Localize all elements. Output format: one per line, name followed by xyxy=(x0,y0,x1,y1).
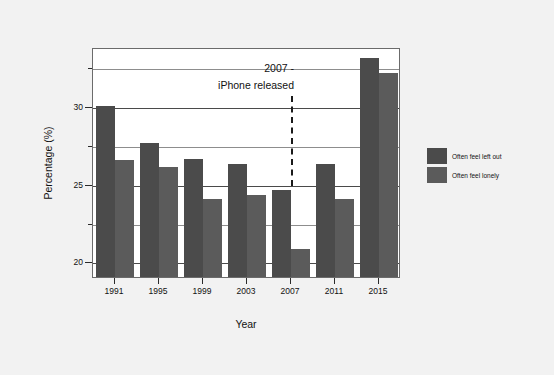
x-tick-label-2015: 2015 xyxy=(369,286,388,296)
bar-2015-lonely xyxy=(379,73,398,277)
legend-label: Often feel left out xyxy=(452,153,502,160)
y-tick-label-20: 20 xyxy=(74,257,83,267)
x-tick-mark xyxy=(246,278,247,284)
x-tick-label-1999: 1999 xyxy=(193,286,212,296)
y-axis-title: Percentage (%) xyxy=(42,127,54,200)
iphone-annotation: 2007 - iPhone released xyxy=(170,60,294,94)
x-tick-label-1995: 1995 xyxy=(149,286,168,296)
bar-2007-lonely xyxy=(291,249,310,277)
bar-1991-left-out xyxy=(96,106,115,277)
annotation-line-2: iPhone released xyxy=(170,77,294,94)
bar-2011-left-out xyxy=(316,164,335,277)
x-tick-mark xyxy=(334,278,335,284)
annotation-line-1: 2007 - xyxy=(170,60,294,77)
x-tick-mark xyxy=(158,278,159,284)
y-tick-label-25: 25 xyxy=(74,180,83,190)
bar-2007-left-out xyxy=(272,190,291,277)
bar-2003-lonely xyxy=(247,195,266,277)
x-tick-label-2003: 2003 xyxy=(237,286,256,296)
bar-2011-lonely xyxy=(335,199,354,277)
bar-1999-left-out xyxy=(184,159,203,277)
x-tick-label-2007: 2007 xyxy=(281,286,300,296)
legend: Often feel left outOften feel lonely xyxy=(427,148,502,186)
bar-1995-left-out xyxy=(140,143,159,277)
bar-1991-lonely xyxy=(115,160,134,277)
annotation-marker-line xyxy=(291,96,293,186)
x-tick-mark xyxy=(290,278,291,284)
x-tick-mark xyxy=(202,278,203,284)
chart-figure: Percentage (%) Year 202530 1991199519992… xyxy=(0,0,554,375)
legend-item-left-out: Often feel left out xyxy=(427,148,502,164)
bar-1995-lonely xyxy=(159,167,178,277)
legend-item-lonely: Often feel lonely xyxy=(427,167,502,183)
bar-2003-left-out xyxy=(228,164,247,277)
legend-label: Often feel lonely xyxy=(452,172,499,179)
legend-swatch xyxy=(427,148,447,164)
x-tick-label-1991: 1991 xyxy=(105,286,124,296)
y-tick-label-30: 30 xyxy=(74,102,83,112)
x-tick-mark xyxy=(378,278,379,284)
bar-1999-lonely xyxy=(203,199,222,277)
x-tick-mark xyxy=(114,278,115,284)
legend-swatch xyxy=(427,167,447,183)
x-tick-label-2011: 2011 xyxy=(325,286,343,296)
x-axis-title: Year xyxy=(235,318,256,330)
bar-2015-left-out xyxy=(360,58,379,277)
